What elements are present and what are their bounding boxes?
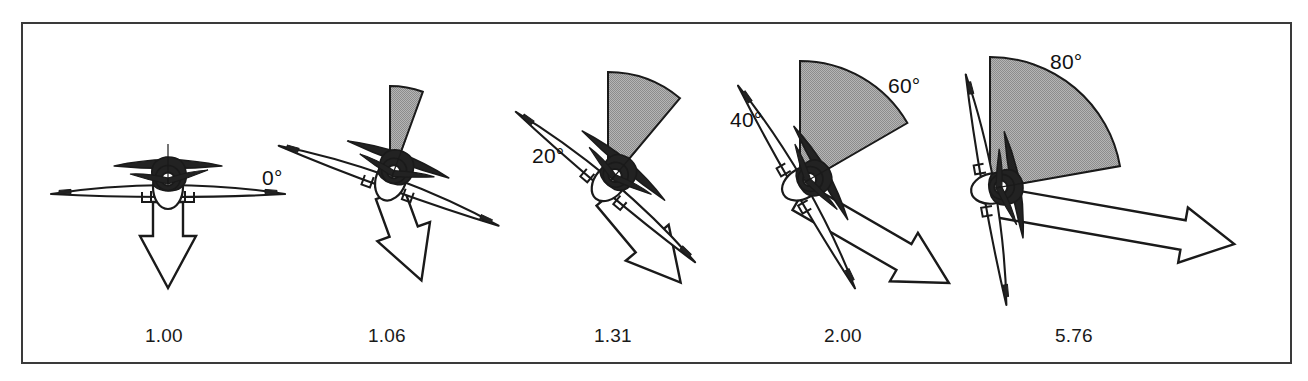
bank-angle-label: 0° <box>262 166 282 190</box>
load-vector-arrow[interactable] <box>140 202 196 288</box>
bank-angle-label: 40° <box>730 108 762 132</box>
diagram-svg <box>0 0 1308 381</box>
panel-group <box>506 72 727 301</box>
wingtip-marker <box>59 189 71 194</box>
figure-canvas: 0°1.0020°1.0640°1.3160°2.0080°5.76 <box>0 0 1308 381</box>
bank-angle-label: 80° <box>1050 50 1082 74</box>
aircraft <box>51 144 285 209</box>
panel-group <box>51 144 285 288</box>
load-factor-label: 5.76 <box>1055 325 1093 347</box>
bank-angle-label: 20° <box>532 144 564 168</box>
bank-angle-label: 60° <box>888 74 920 98</box>
wingtip-marker <box>265 189 277 194</box>
panel-group <box>951 57 1239 308</box>
load-factor-label: 2.00 <box>824 325 862 347</box>
load-factor-label: 1.00 <box>145 325 183 347</box>
panel-group <box>725 61 963 308</box>
load-factor-label: 1.31 <box>594 325 632 347</box>
load-factor-label: 1.06 <box>368 325 406 347</box>
panel-group <box>274 86 516 290</box>
